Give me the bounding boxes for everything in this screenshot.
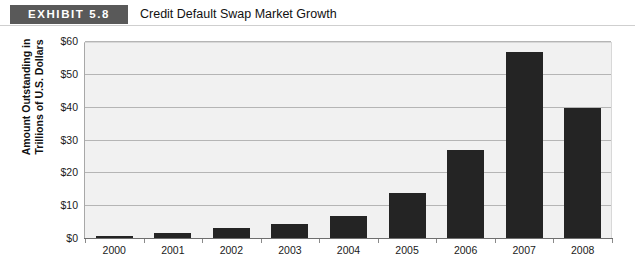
x-axis-tick-mark [436,239,437,243]
x-axis-tick-mark [612,239,613,243]
bar [447,150,484,239]
bar [271,224,308,239]
x-axis-tick-label: 2002 [203,244,259,256]
x-axis-tick-mark [85,239,86,243]
y-axis-tick-label: $40 [38,101,78,113]
x-axis-tick-mark [553,239,554,243]
x-axis-tick-label: 2001 [145,244,201,256]
x-axis-tick-label: 2000 [86,244,142,256]
x-axis-tick-mark [319,239,320,243]
x-axis-tick-label: 2007 [496,244,552,256]
header-divider [0,25,635,26]
x-axis-tick-mark [495,239,496,243]
x-axis-tick-label: 2004 [321,244,377,256]
bar [389,193,426,239]
x-axis-tick-mark [261,239,262,243]
bars-layer [85,42,612,239]
bar [564,108,601,239]
page-title: Credit Default Swap Market Growth [140,5,337,24]
y-axis-tick-label: $30 [38,134,78,146]
bar [506,52,543,239]
x-axis-tick-label: 2005 [379,244,435,256]
x-axis-tick-label: 2008 [555,244,611,256]
bar [330,216,367,239]
x-axis-tick-mark [144,239,145,243]
x-axis-tick-mark [202,239,203,243]
y-axis-tick-label: $10 [38,199,78,211]
y-axis-tick-label: $60 [38,35,78,47]
x-axis-line [84,238,613,239]
bar-chart: Amount Outstanding in Trillions of U.S. … [0,30,635,269]
y-axis-tick-label: $20 [38,166,78,178]
x-axis-tick-label: 2003 [262,244,318,256]
exhibit-header: EXHIBIT 5.8 Credit Default Swap Market G… [0,0,635,30]
x-axis-tick-mark [378,239,379,243]
y-axis-tick-label: $50 [38,68,78,80]
x-axis-tick-label: 2006 [438,244,494,256]
y-axis-tick-label: $0 [38,232,78,244]
